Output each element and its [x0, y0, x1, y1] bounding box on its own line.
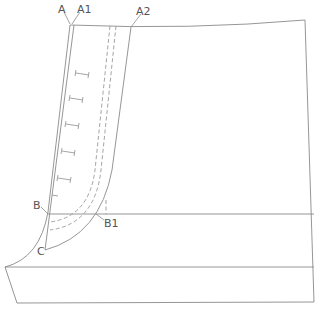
pattern-drawing: A A1 A2 B B1 C	[0, 0, 317, 324]
label-A1: A1	[77, 3, 92, 16]
leader-B1	[96, 214, 104, 220]
hem-line	[17, 302, 314, 303]
label-A2: A2	[136, 5, 151, 18]
label-C: C	[37, 245, 45, 258]
pattern-diagram: A A1 A2 B B1 C	[0, 0, 317, 324]
tick-mark	[52, 195, 58, 196]
center-front-inner	[45, 25, 74, 250]
waist-line	[70, 20, 305, 27]
buttonhole-1	[75, 70, 89, 78]
label-B: B	[33, 199, 41, 212]
label-B1: B1	[104, 217, 119, 230]
buttonhole-2	[69, 95, 83, 103]
left-lower-edge	[5, 267, 17, 303]
stitch-line-outer	[50, 26, 116, 230]
side-seam	[305, 20, 314, 302]
center-front-outer	[5, 25, 70, 267]
buttonhole-5	[57, 175, 71, 183]
leader-B	[41, 207, 48, 214]
buttonhole-3	[65, 121, 79, 129]
label-A: A	[58, 3, 66, 16]
stitch-line-inner	[50, 26, 110, 222]
buttonhole-4	[61, 148, 75, 156]
